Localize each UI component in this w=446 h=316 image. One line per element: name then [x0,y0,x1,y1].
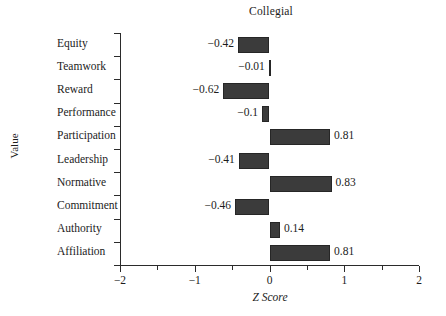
category-label-teamwork: Teamwork [57,60,106,72]
y-tick [114,149,120,150]
category-label-commitment: Commitment [57,199,118,211]
y-tick [114,219,120,220]
category-label-authority: Authority [57,222,102,234]
bar [239,153,270,169]
y-tick [114,195,120,196]
bar [262,106,269,122]
x-tick-label: 1 [324,274,364,286]
bar-chart: Collegial Value Z Score −2−1012 −0.42−0.… [0,0,446,316]
plot-area: −2−1012 −0.42−0.01−0.62−0.10.81−0.410.83… [120,33,419,265]
x-tick-−2 [120,266,121,272]
bar [270,222,280,238]
bar [269,60,271,76]
category-label-equity: Equity [57,37,88,49]
y-tick [114,172,120,173]
bar-value-label: 0.14 [284,222,304,234]
chart-title: Collegial [0,5,446,17]
y-axis-spine [120,33,121,265]
bar [270,129,331,145]
y-tick [114,242,120,243]
y-tick [114,33,120,34]
x-tick-label: 0 [250,274,290,286]
category-label-leadership: Leadership [57,153,108,165]
bar [270,245,331,261]
category-label-normative: Normative [57,176,106,188]
bar [235,199,269,215]
x-tick-minor [307,266,308,270]
x-tick-minor [232,266,233,270]
category-label-participation: Participation [57,129,116,141]
x-tick-minor [157,266,158,270]
bar-value-label: −0.01 [238,60,265,72]
bar [270,176,332,192]
y-tick [114,126,120,127]
bar-value-label: 0.81 [334,129,354,141]
y-tick [114,79,120,80]
bar-value-label: 0.83 [336,176,356,188]
x-tick-1 [344,266,345,272]
bar-value-label: −0.41 [208,153,235,165]
y-tick [114,103,120,104]
category-label-reward: Reward [57,83,93,95]
category-label-performance: Performance [57,106,116,118]
bar-value-label: −0.1 [237,106,258,118]
x-tick-−1 [195,266,196,272]
x-tick-label: 2 [399,274,439,286]
bar-value-label: −0.62 [193,83,220,95]
bar-value-label: −0.46 [205,199,232,211]
y-tick [114,56,120,57]
x-tick-minor [382,266,383,270]
x-axis-title: Z Score [120,291,420,303]
category-label-affiliation: Affiliation [57,245,105,257]
y-axis-title: Value [8,116,20,176]
bar [223,83,269,99]
x-tick-2 [419,266,420,272]
x-tick-label: −1 [175,274,215,286]
bar [238,37,269,53]
x-tick-0 [270,266,271,272]
x-tick-label: −2 [100,274,140,286]
bar-value-label: 0.81 [334,245,354,257]
chart-title-text: Collegial [249,5,293,17]
bar-value-label: −0.42 [207,37,234,49]
